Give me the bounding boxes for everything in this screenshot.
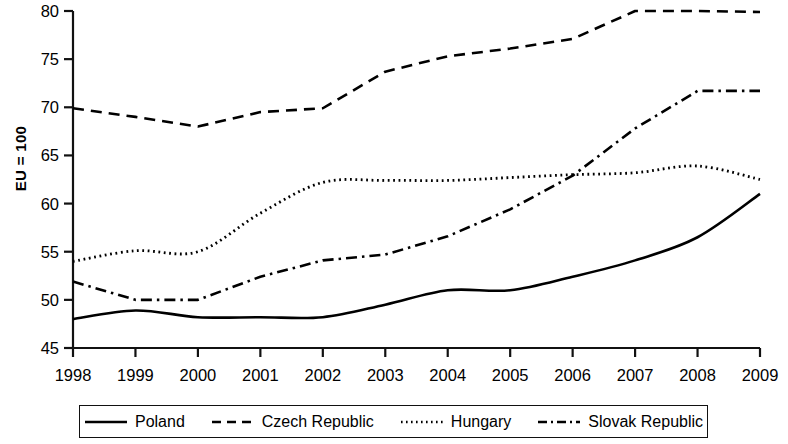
x-tick-label: 2006: [554, 366, 591, 384]
legend-swatch-solid: [84, 416, 128, 428]
legend-label-czech-republic: Czech Republic: [262, 414, 374, 430]
legend-swatch-dashed: [211, 416, 255, 428]
y-tick-label: 45: [41, 339, 59, 357]
chart-figure: EU = 100 4550556065707580199819992000200…: [0, 0, 788, 444]
x-tick-label: 2003: [367, 366, 404, 384]
y-tick-label: 60: [41, 195, 59, 213]
legend-item-hungary: Hungary: [400, 414, 511, 430]
y-tick-label: 50: [41, 291, 59, 309]
chart-legend: Poland Czech Republic Hungary Slovak Rep…: [79, 405, 708, 438]
x-tick-label: 2007: [617, 366, 654, 384]
x-tick-label: 2004: [429, 366, 466, 384]
x-tick-label: 2009: [742, 366, 779, 384]
y-tick-label: 70: [41, 98, 59, 116]
legend-item-poland: Poland: [84, 414, 185, 430]
y-tick-label: 80: [41, 2, 59, 20]
x-tick-label: 1998: [55, 366, 92, 384]
series-line-czech-republic: [73, 11, 760, 127]
x-tick-label: 2008: [679, 366, 716, 384]
legend-swatch-dashdot: [537, 416, 581, 428]
y-tick-label: 75: [41, 50, 59, 68]
y-tick-label: 65: [41, 146, 59, 164]
legend-item-czech-republic: Czech Republic: [211, 414, 374, 430]
x-tick-label: 2005: [492, 366, 529, 384]
plot-area: 4550556065707580199819992000200120022003…: [0, 0, 788, 400]
x-tick-label: 2000: [180, 366, 217, 384]
legend-label-slovak-republic: Slovak Republic: [588, 414, 703, 430]
line-chart-canvas: 4550556065707580199819992000200120022003…: [0, 0, 788, 400]
x-tick-label: 1999: [117, 366, 154, 384]
legend-swatch-dotted: [400, 416, 444, 428]
series-line-slovak-republic: [73, 91, 760, 300]
x-tick-label: 2001: [242, 366, 279, 384]
legend-label-poland: Poland: [135, 414, 185, 430]
x-tick-label: 2002: [304, 366, 341, 384]
series-line-poland: [73, 194, 760, 319]
y-tick-label: 55: [41, 243, 59, 261]
series-line-hungary: [73, 166, 760, 261]
legend-item-slovak-republic: Slovak Republic: [537, 414, 703, 430]
legend-label-hungary: Hungary: [451, 414, 511, 430]
